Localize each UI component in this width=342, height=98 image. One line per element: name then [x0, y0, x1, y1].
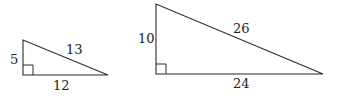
small-hypotenuse-label: 13: [66, 42, 83, 57]
small-leg-vertical-label: 5: [10, 52, 18, 67]
large-leg-horizontal-label: 24: [233, 76, 250, 91]
small-right-angle-marker: [23, 65, 33, 75]
large-right-angle-marker: [156, 64, 166, 74]
small-triangle: 5 13 12: [10, 40, 108, 93]
small-leg-horizontal-label: 12: [53, 78, 70, 93]
large-triangle: 10 26 24: [138, 4, 323, 91]
diagram-canvas: 5 13 12 10 26 24: [0, 0, 342, 98]
large-triangle-outline: [156, 4, 323, 74]
large-leg-vertical-label: 10: [138, 31, 155, 46]
large-hypotenuse-label: 26: [233, 21, 250, 36]
